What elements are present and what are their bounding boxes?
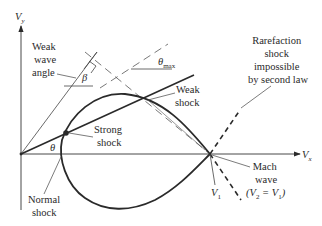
rarefaction-label: Rarefaction shock impossible by second l… <box>248 35 308 85</box>
strong-shock-point <box>63 130 69 136</box>
normal-shock-label: Normal shock <box>28 194 63 218</box>
normal-shock-leader <box>44 157 61 194</box>
weak-shock-label: Weak shock <box>175 84 202 108</box>
strong-shock-leader <box>69 133 93 137</box>
origin-point <box>20 153 23 156</box>
rarefaction-dashed-line <box>210 110 240 154</box>
theta-label: θ <box>50 142 55 153</box>
shock-polar-diagram: Vy Vx Weak wave angle β θmax Weak shock <box>0 0 322 226</box>
vy-axis-label: Vy <box>15 11 25 25</box>
mach-wave-equation: (V2 = V1) <box>246 187 286 201</box>
strong-shock-label: Strong shock <box>94 124 125 148</box>
beta-label: β <box>81 72 88 83</box>
theta-max-label: θmax <box>158 56 176 70</box>
weak-wave-angle-label: Weak wave angle <box>32 41 59 78</box>
v1-line <box>210 154 215 185</box>
vx-axis-label: Vx <box>302 149 312 163</box>
right-angle-marker <box>89 61 96 73</box>
weak-wave-leader <box>57 74 76 78</box>
rarefaction-leader <box>241 86 271 108</box>
mach-wave-label: Mach wave <box>253 161 280 185</box>
v1-label: V1 <box>211 187 221 201</box>
shock-polar-curve <box>61 94 210 209</box>
